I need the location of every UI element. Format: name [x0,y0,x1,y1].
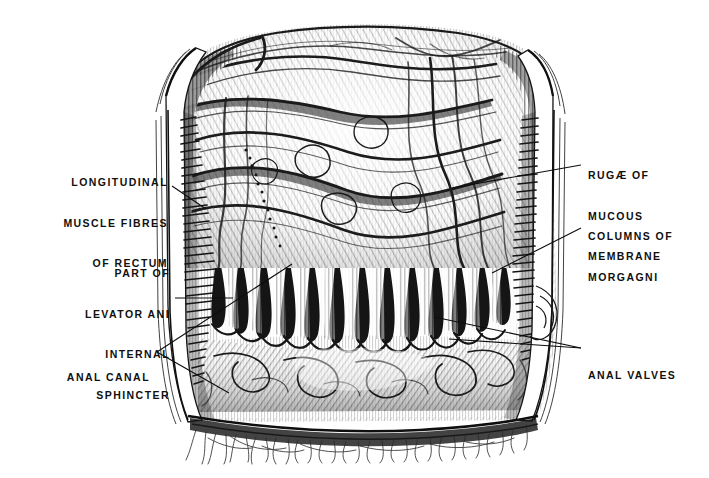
label-anal-canal: ANAL CANAL [38,344,150,398]
specimen-body [150,20,570,464]
label-anal-valves: ANAL VALVES [588,342,708,396]
label-line: MORGAGNI [588,271,708,285]
label-line: ANAL CANAL [38,371,150,385]
label-line: PART OF [58,267,170,281]
label-line: LEVATOR ANI [58,308,170,322]
label-columns-of-morgagni: COLUMNS OF MORGAGNI [588,203,708,298]
label-line: RUGÆ OF [588,169,708,183]
label-line: ANAL VALVES [588,369,708,383]
label-line: COLUMNS OF [588,230,708,244]
label-line: LONGITUDINAL [28,176,168,190]
label-line: MUSCLE FIBRES [28,217,168,231]
